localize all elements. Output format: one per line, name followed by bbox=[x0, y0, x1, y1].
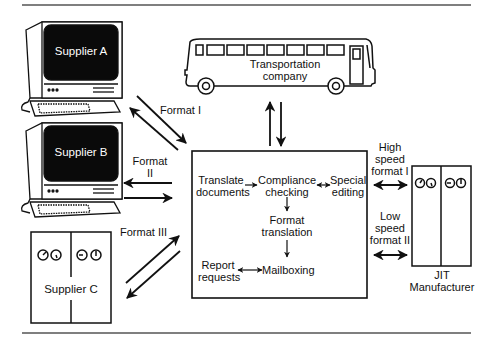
step-report-line2: requests bbox=[198, 271, 238, 283]
jit-label: JIT Manufacturer bbox=[400, 269, 484, 293]
edge-label-high-speed-line2: speed bbox=[368, 153, 412, 165]
step-translate-documents: Translate documents bbox=[196, 174, 246, 198]
step-report-requests: Report requests bbox=[198, 259, 238, 283]
supplier-c-label: Supplier C bbox=[36, 283, 106, 295]
edge-label-low-speed-line2: speed bbox=[368, 222, 412, 234]
edge-label-format-ii-line1: Format bbox=[130, 155, 170, 167]
edge-label-high-speed-line1: High bbox=[368, 141, 412, 153]
edge-label-format-ii: Format II bbox=[130, 155, 170, 179]
edge-label-high-speed-line3: format I bbox=[368, 165, 412, 177]
step-special-editing: Special editing bbox=[330, 174, 366, 198]
edge-label-high-speed: High speed format I bbox=[368, 141, 412, 177]
step-mailboxing: Mailboxing bbox=[262, 264, 315, 276]
supplier-a-label: Supplier A bbox=[47, 45, 115, 57]
transport-label-line1: Transportation bbox=[240, 58, 330, 70]
step-special-line1: Special bbox=[330, 174, 366, 186]
supplier-a-computer-icon bbox=[22, 22, 122, 116]
jit-manufacturer-cabinet-icon bbox=[412, 166, 471, 266]
supplier-b-label: Supplier B bbox=[47, 146, 115, 158]
edge-label-low-speed-line1: Low bbox=[368, 210, 412, 222]
step-translate-line1: Translate bbox=[196, 174, 246, 186]
transport-label: Transportation company bbox=[240, 58, 330, 82]
step-format-line1: Format bbox=[257, 214, 317, 226]
step-compliance-line1: Compliance bbox=[257, 174, 317, 186]
supplier-c-cabinet-icon bbox=[31, 232, 111, 323]
supplier-b-computer-icon bbox=[22, 123, 122, 217]
edge-label-low-speed: Low speed format II bbox=[368, 210, 412, 246]
step-special-line2: editing bbox=[330, 186, 366, 198]
step-compliance-checking: Compliance checking bbox=[257, 174, 317, 198]
edge-label-low-speed-line3: format II bbox=[368, 234, 412, 246]
step-report-line1: Report bbox=[198, 259, 238, 271]
edge-label-format-ii-line2: II bbox=[130, 167, 170, 179]
edge-label-format-i: Format I bbox=[160, 104, 201, 116]
jit-label-line2: Manufacturer bbox=[400, 281, 484, 293]
transport-label-line2: company bbox=[240, 70, 330, 82]
step-translate-line2: documents bbox=[196, 186, 246, 198]
jit-label-line1: JIT bbox=[400, 269, 484, 281]
edge-label-format-iii: Format III bbox=[120, 226, 167, 238]
step-format-line2: translation bbox=[257, 226, 317, 238]
step-format-translation: Format translation bbox=[257, 214, 317, 238]
step-compliance-line2: checking bbox=[257, 186, 317, 198]
